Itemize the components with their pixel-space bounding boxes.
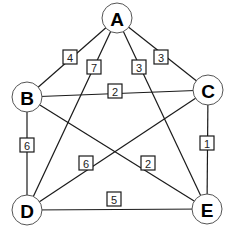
edge-weight-b-e: 2 [141,156,155,170]
weight-label: 7 [91,62,97,74]
edge-weight-b-d: 6 [20,138,34,152]
edge-a-d [27,18,117,210]
edge-weight-c-e: 1 [200,136,214,150]
edge-weight-a-e: 3 [132,60,146,74]
weight-label: 6 [24,140,30,152]
weight-labels-layer: 4733266215 [20,50,214,206]
graph-diagram: 4733266215 ABCDE [0,0,233,226]
weight-label: 3 [136,62,142,74]
node-a: A [102,3,132,33]
node-d: D [12,195,42,225]
weight-label: 2 [145,158,151,170]
edge-weight-b-c: 2 [108,84,122,98]
node-c: C [193,75,223,105]
edge-weight-c-d: 6 [79,156,93,170]
edges-layer [27,18,208,210]
weight-label: 2 [112,86,118,98]
edge-weight-d-e: 5 [107,192,121,206]
graph-svg: 4733266215 ABCDE [0,0,233,226]
node-label: B [20,88,34,109]
node-label: C [201,81,215,102]
edge-d-e [27,209,207,210]
node-label: D [20,201,34,222]
node-e: E [192,194,222,224]
weight-label: 3 [158,52,164,64]
node-label: E [201,200,214,221]
weight-label: 6 [83,158,89,170]
edge-weight-a-d: 7 [87,60,101,74]
weight-label: 1 [204,138,210,150]
node-b: B [12,82,42,112]
weight-label: 4 [67,52,73,64]
edge-weight-a-c: 3 [154,50,168,64]
weight-label: 5 [111,194,117,206]
node-label: A [110,9,124,30]
edge-weight-a-b: 4 [63,50,77,64]
